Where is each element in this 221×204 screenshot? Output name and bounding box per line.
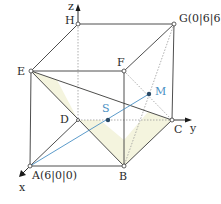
label-g: G(0|6|6) [179, 13, 221, 24]
label-a: A(6|0|0) [32, 170, 77, 181]
edge-fg [124, 24, 174, 71]
vertex-e [29, 69, 33, 73]
label-d: D [60, 114, 69, 125]
label-f: F [117, 57, 125, 68]
edge-gc [172, 24, 174, 120]
label-z: z [68, 1, 74, 12]
label-y: y [190, 123, 196, 134]
vertex-b [122, 164, 126, 168]
vertex-a [28, 164, 32, 168]
edge-eh [31, 24, 78, 71]
edge-ad [30, 120, 78, 166]
point-s [106, 118, 110, 122]
vertex-g [172, 22, 176, 26]
label-c: C [174, 124, 182, 135]
label-e: E [17, 66, 25, 77]
label-s: S [102, 103, 110, 114]
edge-ea [30, 71, 31, 166]
vertex-h [76, 22, 80, 26]
label-x: x [19, 182, 25, 193]
point-m [147, 92, 151, 96]
vertex-c [170, 118, 174, 122]
z-axis-arrow-icon [76, 4, 81, 11]
label-h: H [65, 15, 75, 26]
label-b: B [119, 171, 127, 182]
label-m: M [155, 86, 166, 97]
vertex-d [77, 119, 80, 122]
vertex-f [122, 69, 126, 73]
